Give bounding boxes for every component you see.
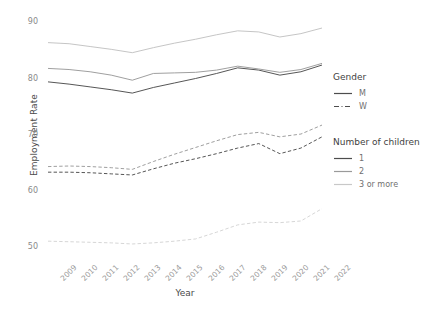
legend-item-label: M	[359, 89, 366, 98]
legend-item-label: 3 or more	[359, 180, 398, 189]
legend-gender: Gender MW	[333, 72, 367, 113]
legend-children-item[interactable]: 2	[333, 165, 420, 178]
series-line	[48, 209, 322, 244]
series-line	[48, 65, 322, 93]
legend-children-item[interactable]: 1	[333, 152, 420, 165]
legend-line-swatch-icon	[333, 153, 353, 164]
legend-item-label: W	[359, 102, 367, 111]
legend-item-label: 1	[359, 154, 364, 163]
legend-children-title: Number of children	[333, 137, 420, 147]
legend-gender-item[interactable]: M	[333, 87, 367, 100]
legend-line-swatch-icon	[333, 166, 353, 177]
series-line	[48, 28, 322, 53]
legend-line-swatch-icon	[333, 179, 353, 190]
series-line	[48, 125, 322, 169]
chart-figure: Employment Rate Year 5060708090 20092010…	[0, 0, 435, 311]
legend-line-swatch-icon	[333, 88, 353, 99]
legend-gender-title: Gender	[333, 72, 367, 82]
legend-line-swatch-icon	[333, 101, 353, 112]
legend-gender-item[interactable]: W	[333, 100, 367, 113]
legend-children: Number of children 123 or more	[333, 137, 420, 191]
series-line	[48, 137, 322, 175]
series-line	[48, 63, 322, 80]
legend-item-label: 2	[359, 167, 364, 176]
legend-children-item[interactable]: 3 or more	[333, 178, 420, 191]
